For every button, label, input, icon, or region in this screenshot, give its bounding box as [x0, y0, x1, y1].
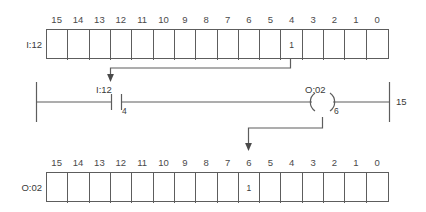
- arrowhead-to-output-bit: [245, 143, 252, 151]
- coil-to-output-bit-connector: [249, 117, 323, 143]
- xic-contact-symbol: [112, 94, 122, 110]
- diagram-vector-layer: [0, 0, 426, 212]
- ladder-bit-addressing-diagram: 1514131211109876543210 I:12 1 I:12 4 O:0…: [0, 0, 426, 212]
- input-bit-to-contact-connector: [111, 59, 291, 76]
- ote-coil-symbol: [310, 93, 334, 111]
- arrowhead-to-contact: [107, 74, 114, 82]
